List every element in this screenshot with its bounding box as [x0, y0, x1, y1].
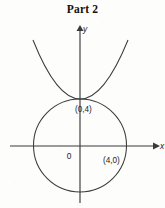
figure-container: Part 2 0 x y (0,4) (4,0) — [0, 0, 165, 208]
point-label-0-4: (0,4) — [75, 105, 92, 114]
labels-group: 0 x y (0,4) (4,0) — [67, 24, 165, 165]
point-label-4-0: (4,0) — [103, 156, 120, 165]
y-axis-label: y — [82, 24, 88, 34]
coordinate-plot: 0 x y (0,4) (4,0) — [0, 0, 165, 208]
origin-label: 0 — [67, 151, 72, 161]
axes-group — [10, 25, 160, 203]
x-axis-label: x — [159, 141, 165, 151]
x-axis-arrow-icon — [153, 142, 160, 149]
